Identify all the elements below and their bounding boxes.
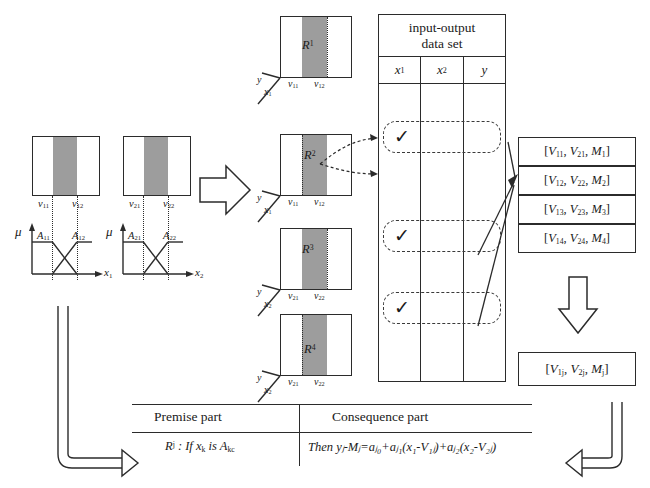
final-parameter-box: [V1j, V2j, Mj]: [518, 352, 636, 386]
fuzzy-set-label-right: A12: [72, 230, 85, 241]
region-x-label: x1: [264, 86, 272, 97]
membership-panel-x2: v21 v22 μ A21 A22 x2: [105, 136, 197, 304]
v-label-left: v21: [129, 198, 140, 209]
parameter-box-content: [V14, V24, M4]: [544, 231, 610, 246]
column-header-x2: x2: [421, 57, 463, 83]
parameter-box-1: [V11, V21, M1]: [518, 137, 636, 166]
arrows-table-to-parameter-boxes: [440, 130, 530, 390]
feedback-loop-left-arrow: [52, 304, 142, 480]
rule-divider-mid: [132, 432, 532, 433]
fuzzy-set-label-right: A22: [163, 230, 176, 241]
region-x-label: x2: [264, 298, 272, 309]
rule-divider-vertical: [299, 404, 300, 466]
x-axis-label: x2: [195, 266, 203, 279]
parameter-box-content: [V13, V23, M3]: [544, 202, 610, 217]
hollow-arrow-down-icon: [557, 275, 599, 337]
parameter-box-3: [V13, V23, M3]: [518, 195, 636, 224]
region-y-label: y: [257, 372, 261, 383]
region-label: R3: [302, 242, 314, 257]
region-v-left: v11: [288, 78, 298, 89]
column-header-x1: x1: [379, 57, 421, 83]
region-label: R4: [304, 342, 316, 357]
region-label: R1: [302, 38, 314, 53]
consequence-part-header: Consequence part: [332, 409, 428, 425]
premise-formula: Rj : If xk is Akc: [165, 439, 235, 454]
region-v-left: v21: [288, 376, 299, 387]
input-space-rect-x1: [32, 136, 100, 196]
region-box: [280, 228, 352, 290]
input-space-rect-x2: [123, 136, 191, 196]
dashed-edge: [302, 315, 303, 375]
region-v-left: v11: [288, 196, 298, 207]
region-x-label: x2: [264, 384, 272, 395]
premise-part-header: Premise part: [154, 409, 222, 425]
dashed-edge: [327, 229, 328, 289]
parameter-box-2: [V12, V22, M2]: [518, 166, 636, 195]
final-parameter-content: [V1j, V2j, Mj]: [545, 361, 608, 377]
checkmark-icon: ✓: [394, 224, 410, 247]
region-x-label: x1: [264, 204, 272, 215]
table-title-line2: data set: [422, 36, 463, 52]
v-label-left: v11: [38, 198, 49, 209]
rule-divider-top: [132, 404, 532, 405]
fuzzy-set-label-left: A11: [37, 230, 50, 241]
region-v-left: v21: [288, 290, 299, 301]
hollow-arrow-right-icon: [198, 160, 254, 220]
region-v-right: v12: [314, 78, 325, 89]
consequence-formula: Then yⱼ-Mⱼ=aⱼ₀+aⱼ₁(x₁-V₁ⱼ)+aⱼ₂(x₂-V₂ⱼ): [308, 439, 496, 455]
region-y-label: y: [257, 286, 261, 297]
dashed-edge: [327, 17, 328, 77]
rule-definition-area: Premise part Consequence part Rj : If xk…: [132, 404, 532, 470]
table-title-line1: input-output: [409, 20, 476, 36]
v-label-right: v22: [163, 198, 174, 209]
region-v-right: v22: [314, 376, 325, 387]
region-v-right: v22: [314, 290, 325, 301]
feedback-loop-right-arrow: [566, 400, 636, 478]
highlight-band: [144, 137, 168, 195]
dashed-edge: [302, 135, 303, 195]
dashed-fan-r2-to-table: [320, 130, 382, 200]
parameter-box-4: [V14, V24, M4]: [518, 224, 636, 253]
column-header-y: y: [464, 57, 505, 83]
mu-axis-label: μ: [15, 224, 22, 240]
membership-panel-x1: v11 v12 μ A11 A12 x1: [14, 136, 106, 304]
region-box: [280, 314, 352, 376]
table-header-row: x1 x2 y: [379, 57, 505, 84]
fuzzy-set-label-left: A21: [128, 230, 141, 241]
region-label: R2: [304, 148, 316, 163]
parameter-box-content: [V11, V21, M1]: [544, 144, 610, 159]
parameter-box-content: [V12, V22, M2]: [544, 173, 610, 188]
table-title: input-output data set: [379, 15, 505, 57]
highlight-band: [302, 229, 327, 289]
highlight-band: [53, 137, 77, 195]
region-y-label: y: [257, 74, 261, 85]
mu-axis-label: μ: [106, 224, 113, 240]
checkmark-icon: ✓: [394, 125, 410, 148]
v-label-right: v12: [72, 198, 83, 209]
checkmark-icon: ✓: [394, 296, 410, 319]
region-box: [280, 16, 352, 78]
region-y-label: y: [257, 192, 261, 203]
